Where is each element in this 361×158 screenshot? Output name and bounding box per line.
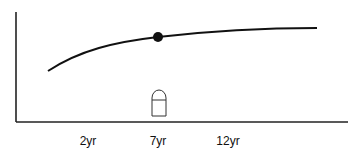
growth-curve: [48, 28, 317, 71]
x-tick-7yr: 7yr: [150, 134, 167, 148]
diagram-canvas: [0, 0, 361, 158]
x-tick-12yr: 12yr: [216, 134, 239, 148]
highlight-dot: [153, 32, 163, 42]
x-tick-2yr: 2yr: [80, 134, 97, 148]
arch-window-icon: [152, 90, 166, 116]
